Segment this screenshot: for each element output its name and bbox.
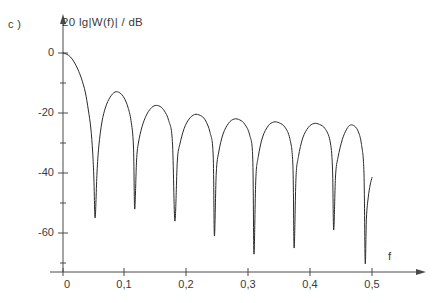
y-axis-title: 20 lg|W(f)| / dB [62, 16, 143, 28]
chart-plot-area [0, 0, 442, 303]
x-tick-label: 0,2 [166, 278, 206, 290]
x-tick-label: 0,4 [290, 278, 330, 290]
x-tick-label: 0,1 [104, 278, 144, 290]
y-tick-label: 0 [20, 46, 54, 58]
axes-group [50, 14, 426, 276]
x-tick-label: 0,3 [228, 278, 268, 290]
chart-figure: c ) 20 lg|W(f)| / dB f 0 -20 -40 -60 0 0… [0, 0, 442, 303]
x-tick-label: 0 [47, 278, 87, 290]
x-axis-title: f [388, 250, 392, 262]
y-tick-label: -60 [20, 226, 54, 238]
panel-label: c ) [8, 18, 21, 30]
y-tick-label: -40 [20, 166, 54, 178]
x-axis-arrow-icon [416, 269, 426, 275]
x-tick-label: 0,5 [352, 278, 392, 290]
data-curve-window-response [63, 53, 372, 264]
y-tick-label: -20 [20, 106, 54, 118]
